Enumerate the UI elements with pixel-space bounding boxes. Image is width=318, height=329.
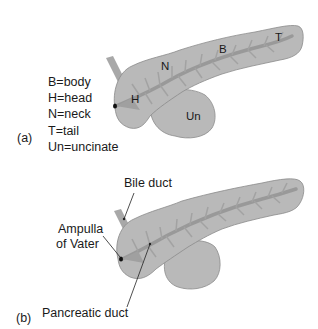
region-label-neck: N (161, 60, 169, 72)
region-label-body: B (219, 43, 227, 55)
callout-ampulla-line2: of Vater (56, 237, 99, 252)
callout-bile-duct: Bile duct (124, 176, 172, 191)
callout-ampulla-line1: Ampulla (58, 222, 103, 237)
region-label-uncinate: Un (186, 110, 201, 122)
callout-pancreatic-duct: Pancreatic duct (42, 306, 128, 321)
region-label-head: H (131, 93, 139, 105)
legend-item-head: H=head (48, 90, 119, 106)
region-label-tail: T (275, 31, 282, 43)
bile-duct-leader (124, 193, 134, 219)
panel-a-labeled-regions: N B T H Un B=body H=head N=neck T=tail U… (0, 0, 318, 165)
legend-item-uncinate: Un=uncinate (48, 139, 119, 155)
legend-item-neck: N=neck (48, 106, 119, 122)
panel-label-a: (a) (17, 131, 32, 146)
panel-b-ducts: Bile duct Ampulla of Vater Pancreatic du… (0, 165, 318, 329)
legend-item-tail: T=tail (48, 123, 119, 139)
panel-label-b: (b) (16, 311, 31, 326)
region-legend: B=body H=head N=neck T=tail Un=uncinate (48, 74, 119, 155)
ampulla-dot (119, 256, 123, 261)
legend-item-body: B=body (48, 74, 119, 90)
